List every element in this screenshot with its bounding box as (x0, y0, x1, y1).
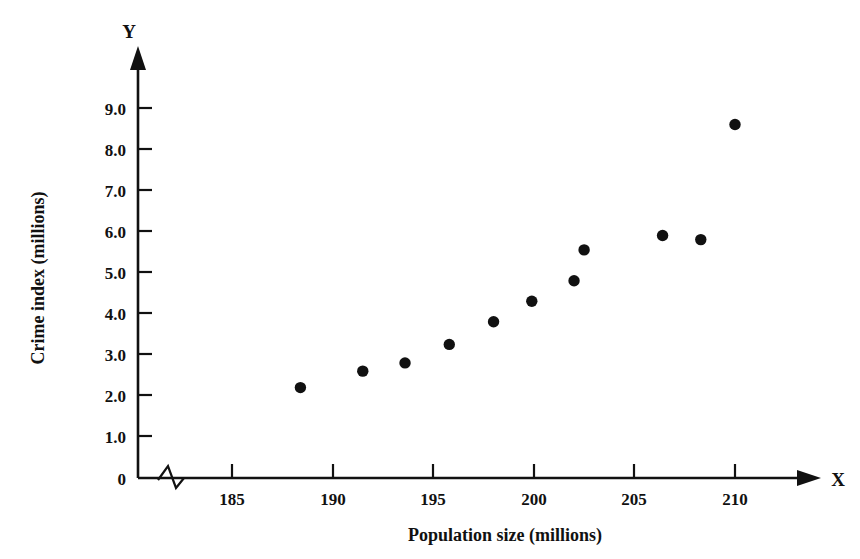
data-point (399, 357, 410, 368)
x-tick-label-185: 185 (219, 490, 245, 509)
data-point (357, 365, 368, 376)
y-axis-title: Crime index (millions) (28, 192, 49, 365)
scatter-chart: 0 1.0 2.0 3.0 4.0 5.0 6.0 7.0 8.0 9.0 18… (0, 0, 860, 559)
data-point (578, 244, 589, 255)
y-tick-label-0: 0 (118, 470, 127, 489)
data-point (526, 296, 537, 307)
y-tick-label-9: 9.0 (105, 100, 126, 119)
x-tick-label-200: 200 (521, 490, 547, 509)
y-axis-name: Y (122, 21, 136, 42)
y-tick-label-2: 2.0 (105, 387, 126, 406)
y-tick-label-5: 5.0 (105, 264, 126, 283)
data-point (444, 339, 455, 350)
data-point (729, 119, 740, 130)
data-point (295, 382, 306, 393)
data-point (695, 234, 706, 245)
x-tick-label-190: 190 (320, 490, 346, 509)
data-point (568, 275, 579, 286)
data-point (657, 230, 668, 241)
data-points-layer (295, 119, 741, 393)
y-tick-label-3: 3.0 (105, 346, 126, 365)
y-axis-arrow-icon (130, 46, 146, 70)
x-axis-title: Population size (millions) (408, 525, 602, 546)
y-tick-label-1: 1.0 (105, 428, 126, 447)
x-tick-label-205: 205 (621, 490, 647, 509)
x-axis-name: X (831, 469, 845, 490)
y-tick-label-6: 6.0 (105, 223, 126, 242)
y-tick-label-4: 4.0 (105, 305, 126, 324)
y-axis-ticks (138, 108, 152, 436)
x-axis-arrow-icon (797, 470, 821, 486)
x-tick-label-210: 210 (722, 490, 748, 509)
data-point (488, 316, 499, 327)
y-tick-label-8: 8.0 (105, 141, 126, 160)
x-axis-ticks (232, 464, 735, 478)
x-tick-label-195: 195 (420, 490, 446, 509)
chart-canvas: 0 1.0 2.0 3.0 4.0 5.0 6.0 7.0 8.0 9.0 18… (0, 0, 860, 559)
y-tick-label-7: 7.0 (105, 182, 126, 201)
